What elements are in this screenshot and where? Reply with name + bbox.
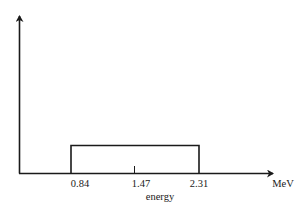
tick-label-0.84: 0.84 — [71, 178, 90, 189]
tick-label-2.31: 2.31 — [190, 178, 208, 189]
x-axis-title: energy — [146, 191, 175, 202]
energy-window-diagram: 0.84 1.47 2.31 MeV energy — [0, 0, 305, 217]
x-unit-label: MeV — [272, 178, 294, 189]
tick-label-1.47: 1.47 — [132, 178, 150, 189]
